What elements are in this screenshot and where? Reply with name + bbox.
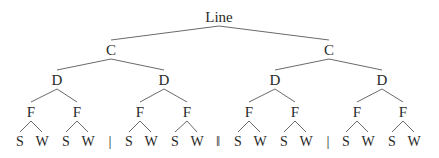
- edge-d-f4: [164, 89, 187, 102]
- edge-f-leaf10: [249, 121, 260, 132]
- node-f-3: F: [136, 104, 144, 120]
- edge-d-f2: [57, 89, 77, 102]
- leaf-s-6: S: [280, 134, 288, 149]
- edge-f-leaf1: [20, 121, 31, 132]
- edge-f-leaf16: [403, 121, 414, 132]
- node-d-1: D: [52, 72, 63, 88]
- edge-d-f8: [382, 89, 403, 102]
- edge-f-leaf4: [77, 121, 88, 132]
- edge-f-leaf2: [31, 121, 42, 132]
- edge-d-f6: [275, 89, 295, 102]
- edge-f-leaf9: [238, 121, 249, 132]
- edge-f-leaf7: [175, 121, 187, 132]
- node-c-left: C: [106, 42, 116, 58]
- edge-c-d4: [329, 59, 382, 70]
- leaf-w-2: W: [81, 134, 95, 149]
- leaf-s-2: S: [62, 134, 70, 149]
- leaf-w-1: W: [35, 134, 49, 149]
- edge-root-c1: [111, 26, 219, 40]
- node-f-2: F: [73, 104, 81, 120]
- edge-f-leaf14: [357, 121, 368, 132]
- node-c-right: C: [324, 42, 334, 58]
- separator-bar-1: |: [108, 133, 111, 149]
- leaf-w-4: W: [190, 134, 204, 149]
- leaf-s-4: S: [171, 134, 179, 149]
- edge-f-leaf12: [295, 121, 306, 132]
- edge-f-leaf11: [284, 121, 295, 132]
- node-f-7: F: [353, 104, 361, 120]
- edge-c-d3: [275, 59, 329, 70]
- leaf-w-6: W: [299, 134, 313, 149]
- node-f-1: F: [27, 104, 35, 120]
- edge-c-d1: [57, 59, 111, 70]
- leaf-s-8: S: [388, 134, 396, 149]
- edge-f-leaf3: [66, 121, 77, 132]
- leaf-s-5: S: [234, 134, 242, 149]
- edge-d-f5: [249, 89, 275, 102]
- node-d-4: D: [377, 72, 388, 88]
- root-node-line: Line: [205, 9, 233, 25]
- leaf-s-1: S: [16, 134, 24, 149]
- edge-root-c2: [219, 26, 329, 40]
- separator-bar-2: |: [326, 133, 329, 149]
- leaf-s-3: S: [125, 134, 133, 149]
- edge-c-d2: [111, 59, 164, 70]
- edge-f-leaf15: [392, 121, 403, 132]
- node-d-2: D: [159, 72, 170, 88]
- edge-f-leaf5: [129, 121, 140, 132]
- edge-d-f7: [357, 89, 382, 102]
- edge-f-leaf6: [140, 121, 151, 132]
- tree-labels: Line C C D D D D F F F F F F F F S W S W…: [16, 9, 421, 149]
- leaf-w-7: W: [361, 134, 375, 149]
- edge-d-f1: [31, 89, 57, 102]
- edge-f-leaf8: [187, 121, 197, 132]
- metrical-tree-diagram: Line C C D D D D F F F F F F F F S W S W…: [0, 0, 439, 158]
- leaf-w-8: W: [407, 134, 421, 149]
- node-d-3: D: [270, 72, 281, 88]
- node-f-4: F: [183, 104, 191, 120]
- separator-double-bar: ‖: [216, 133, 220, 149]
- leaf-s-7: S: [342, 134, 350, 149]
- edge-f-leaf13: [346, 121, 357, 132]
- node-f-5: F: [245, 104, 253, 120]
- leaf-w-3: W: [144, 134, 158, 149]
- edge-d-f3: [140, 89, 164, 102]
- node-f-6: F: [291, 104, 299, 120]
- node-f-8: F: [399, 104, 407, 120]
- leaf-w-5: W: [253, 134, 267, 149]
